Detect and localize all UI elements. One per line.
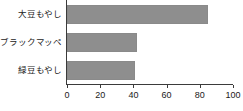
bar-soybean-sprouts bbox=[67, 5, 208, 24]
x-axis-tick-label: 60 bbox=[152, 90, 182, 101]
x-axis-tick-label: 80 bbox=[185, 90, 215, 101]
x-axis-tick bbox=[233, 85, 234, 88]
plot-area: 大豆もやし ブラックマッペ 緑豆もやし 0 20 40 60 80 100 bbox=[0, 0, 243, 111]
x-axis-tick bbox=[100, 85, 101, 88]
category-label-mung-bean-sprouts: 緑豆もやし bbox=[0, 65, 62, 75]
x-axis-tick bbox=[200, 85, 201, 88]
x-axis-tick-label: 0 bbox=[52, 90, 82, 101]
x-axis-tick-label: 40 bbox=[118, 90, 148, 101]
y-axis-line bbox=[66, 0, 67, 85]
category-label-black-matpe: ブラックマッペ bbox=[0, 37, 62, 47]
bar-black-matpe bbox=[67, 33, 137, 52]
bar-chart: 大豆もやし ブラックマッペ 緑豆もやし 0 20 40 60 80 100 bbox=[0, 0, 243, 111]
x-axis-tick bbox=[167, 85, 168, 88]
x-axis-tick-label: 100 bbox=[218, 90, 243, 101]
x-axis-tick bbox=[133, 85, 134, 88]
bar-mung-bean-sprouts bbox=[67, 61, 135, 80]
x-axis-line bbox=[66, 84, 233, 85]
category-label-soybean-sprouts: 大豆もやし bbox=[0, 9, 62, 19]
x-axis-tick-label: 20 bbox=[85, 90, 115, 101]
x-axis-tick bbox=[67, 85, 68, 88]
